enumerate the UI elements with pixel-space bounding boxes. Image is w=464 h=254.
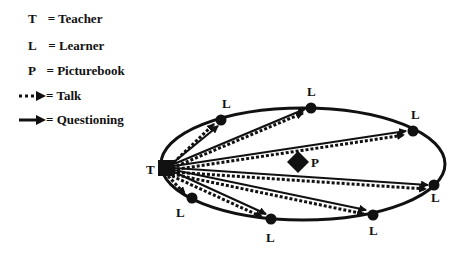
learner-label-6: L <box>266 230 275 245</box>
learner-label-2: L <box>307 84 316 99</box>
learner-label-5: L <box>369 223 378 238</box>
learner-label-1: L <box>222 96 231 111</box>
learner-label-7: L <box>176 205 185 220</box>
learner-label-3: L <box>411 107 420 122</box>
learner-label-4: L <box>431 190 440 205</box>
picturebook-node <box>287 151 309 173</box>
picturebook-label: P <box>311 155 319 170</box>
teacher-label: T <box>146 162 155 177</box>
interaction-diagram: T P L L L L L L L <box>0 0 464 254</box>
teacher-node <box>158 160 174 176</box>
